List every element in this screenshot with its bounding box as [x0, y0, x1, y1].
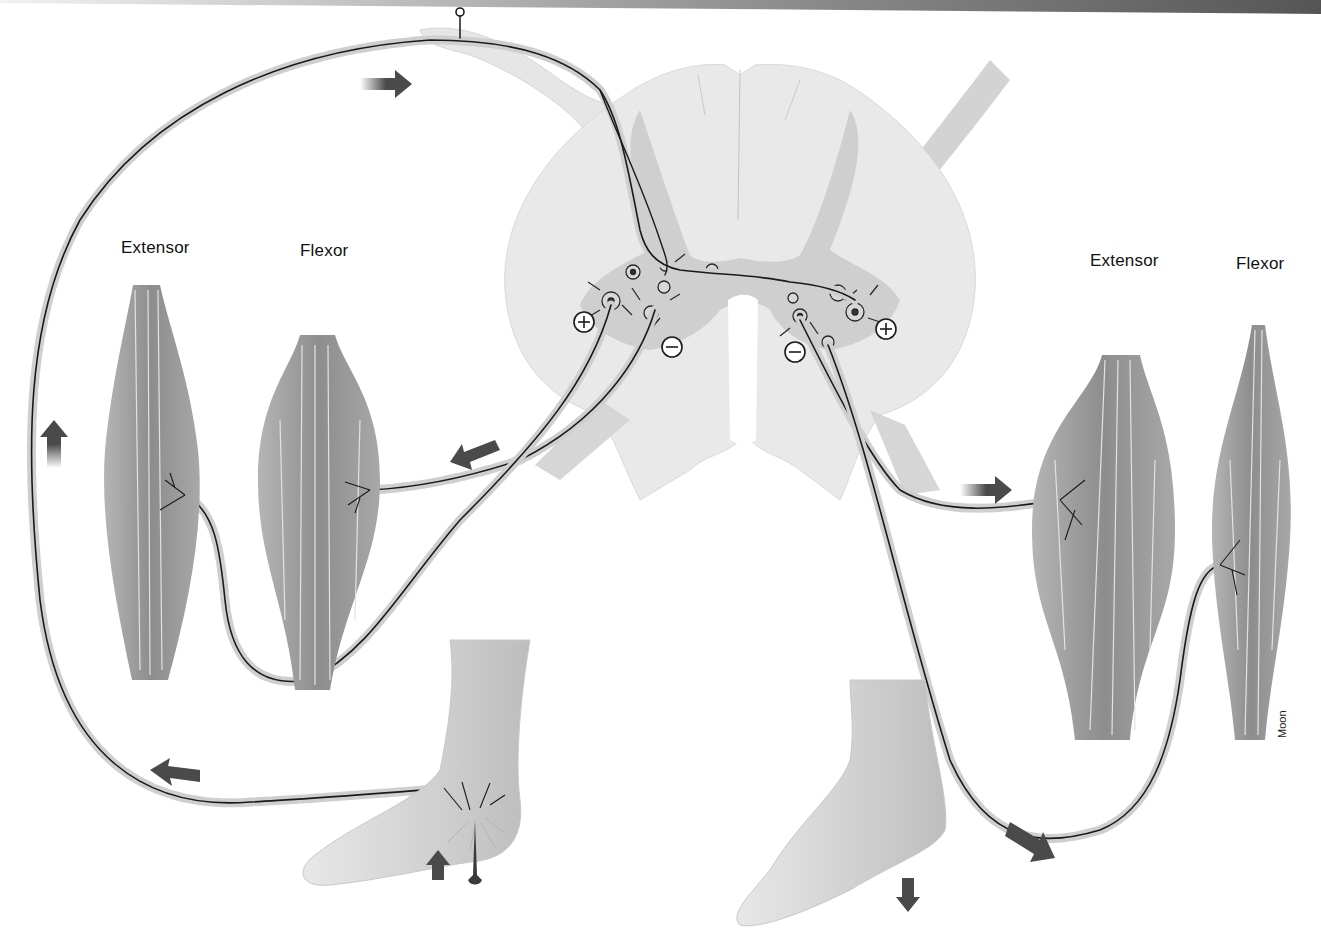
plus-sign-icon [876, 319, 896, 339]
left-extensor-muscle [104, 285, 200, 680]
right-flexor-muscle [1212, 325, 1291, 740]
label-right-extensor: Extensor [1090, 251, 1159, 271]
right-extensor-muscle [1032, 355, 1175, 740]
reflex-diagram [0, 0, 1321, 951]
minus-sign-icon [785, 342, 805, 362]
artist-signature: Moon [1276, 710, 1288, 738]
arrow-down-right-icon [1005, 822, 1055, 862]
arrow-up-icon [40, 420, 68, 468]
plus-sign-icon [574, 312, 594, 332]
label-left-flexor: Flexor [300, 241, 348, 261]
label-right-flexor: Flexor [1236, 254, 1284, 274]
minus-sign-icon [662, 337, 682, 357]
sensory-ganglion-icon [456, 8, 464, 16]
arrow-down-icon [896, 878, 920, 912]
arrow-right-icon [960, 476, 1012, 504]
arrow-up-left-icon [150, 758, 200, 786]
label-left-extensor: Extensor [121, 238, 190, 258]
left-foot-stimulated [303, 640, 530, 885]
right-foot [737, 680, 946, 926]
arrow-right-icon [360, 70, 412, 98]
spinal-cord-cross-section [420, 28, 1010, 500]
